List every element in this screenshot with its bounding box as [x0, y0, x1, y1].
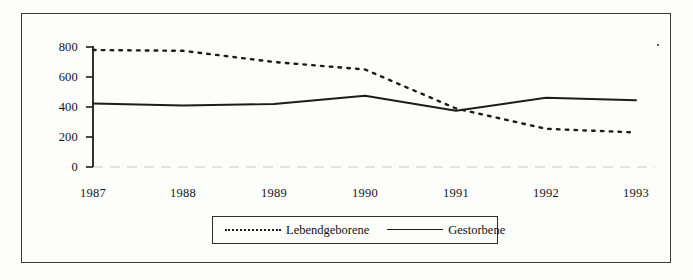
- legend-entry-gestorbene: Gestorbene: [387, 223, 505, 238]
- y-axis-ticks: [86, 47, 93, 167]
- chart-legend: Lebendgeborene Gestorbene: [212, 216, 498, 244]
- y-tick-label-200: 200: [38, 130, 78, 145]
- y-tick-label-400: 400: [38, 100, 78, 115]
- scan-speck: [657, 44, 659, 46]
- legend-entry-lebendgeborene: Lebendgeborene: [225, 223, 369, 238]
- dotted-line-swatch-icon: [225, 225, 281, 235]
- solid-line-swatch-icon: [387, 225, 443, 235]
- x-tick-label-1987: 1987: [63, 186, 123, 201]
- y-tick-label-800: 800: [38, 40, 78, 55]
- x-tick-label-1992: 1992: [516, 186, 576, 201]
- x-tick-label-1991: 1991: [426, 186, 486, 201]
- x-tick-label-1988: 1988: [153, 186, 213, 201]
- legend-label-gestorbene: Gestorbene: [448, 223, 505, 238]
- y-tick-label-0: 0: [38, 160, 78, 175]
- series-line-lebendgeborene: [93, 50, 636, 133]
- chart-page: 800 600 400 200 0 1987 1988 1989 1990 19…: [0, 0, 693, 280]
- legend-label-lebendgeborene: Lebendgeborene: [286, 223, 369, 238]
- x-tick-label-1990: 1990: [335, 186, 395, 201]
- x-tick-label-1993: 1993: [606, 186, 666, 201]
- y-tick-label-600: 600: [38, 70, 78, 85]
- x-tick-label-1989: 1989: [244, 186, 304, 201]
- series-line-gestorbene: [93, 96, 636, 111]
